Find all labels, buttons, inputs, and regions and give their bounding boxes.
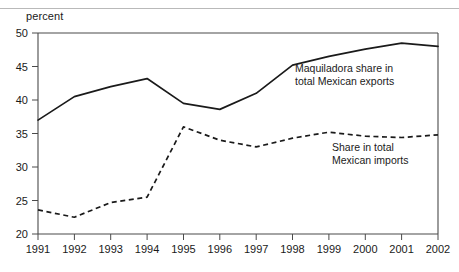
series-annotation-exports: Maquiladora share in total Mexican expor… <box>295 62 394 88</box>
chart-container: percent <box>0 0 459 272</box>
series-annotation-imports-line2: Mexican imports <box>332 154 408 167</box>
plot-area <box>0 0 459 272</box>
series-annotation-imports: Share in total Mexican imports <box>332 141 408 167</box>
y-tick-label-25: 25 <box>6 195 28 207</box>
series-annotation-exports-line2: total Mexican exports <box>295 75 394 88</box>
series-annotation-exports-line1: Maquiladora share in <box>295 62 394 75</box>
y-tick-label-40: 40 <box>6 94 28 106</box>
y-tick-label-45: 45 <box>6 61 28 73</box>
y-tick-label-30: 30 <box>6 161 28 173</box>
series-annotation-imports-line1: Share in total <box>332 141 408 154</box>
y-axis-ticks <box>32 33 38 234</box>
y-tick-label-20: 20 <box>6 228 28 240</box>
x-axis-ticks <box>38 234 438 240</box>
y-tick-label-35: 35 <box>6 128 28 140</box>
y-tick-label-50: 50 <box>6 27 28 39</box>
x-tick-label-2002: 2002 <box>416 243 459 255</box>
